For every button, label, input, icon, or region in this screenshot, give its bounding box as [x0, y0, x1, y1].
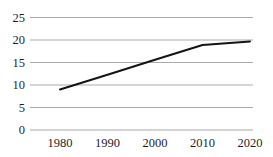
- y-tick-label: 15: [13, 56, 26, 70]
- x-tick-label: 2020: [238, 136, 263, 150]
- x-tick-label: 2010: [190, 136, 215, 150]
- x-tick-label: 1980: [48, 136, 73, 150]
- line-chart: 051015202519801990200020102020: [0, 0, 273, 157]
- y-tick-label: 5: [19, 101, 25, 115]
- y-tick-label: 10: [13, 78, 26, 92]
- data-line: [60, 41, 250, 89]
- y-tick-label: 0: [19, 123, 25, 137]
- chart-canvas: 051015202519801990200020102020: [0, 0, 273, 157]
- x-tick-label: 2000: [143, 136, 168, 150]
- y-tick-label: 25: [13, 11, 26, 25]
- x-tick-label: 1990: [95, 136, 120, 150]
- y-tick-label: 20: [13, 33, 26, 47]
